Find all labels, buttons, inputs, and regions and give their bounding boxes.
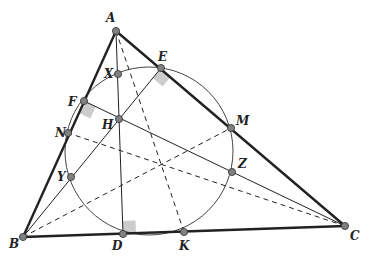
label-F: F — [67, 95, 78, 109]
point-M — [227, 124, 234, 131]
point-Z — [228, 168, 235, 175]
point-B — [19, 233, 26, 240]
point-C — [341, 222, 348, 229]
label-E: E — [157, 50, 168, 64]
geometry-diagram: ABCDEFHKMNXYZ — [0, 0, 369, 264]
nine-point-circle — [65, 67, 233, 235]
label-H: H — [101, 118, 114, 132]
label-D: D — [111, 239, 123, 253]
label-X: X — [103, 67, 114, 81]
point-E — [157, 64, 164, 71]
point-K — [180, 228, 187, 235]
point-F — [80, 97, 87, 104]
label-Z: Z — [237, 157, 248, 171]
points — [19, 27, 348, 240]
point-H — [115, 115, 122, 122]
label-C: C — [350, 229, 360, 243]
label-K: K — [178, 239, 190, 253]
altitude-BE — [23, 68, 161, 237]
point-D — [119, 230, 126, 237]
label-M: M — [235, 114, 250, 128]
median-BM — [23, 128, 231, 237]
label-A: A — [105, 11, 115, 25]
point-A — [112, 27, 119, 34]
label-B: B — [8, 237, 19, 251]
altitude-AD — [116, 31, 123, 234]
label-Y: Y — [57, 170, 67, 184]
point-Y — [67, 173, 74, 180]
altitude-CF — [84, 101, 345, 226]
nine-point-circle — [65, 67, 233, 235]
label-N: N — [54, 126, 67, 140]
point-labels: ABCDEFHKMNXYZ — [8, 11, 360, 253]
point-X — [114, 70, 121, 77]
